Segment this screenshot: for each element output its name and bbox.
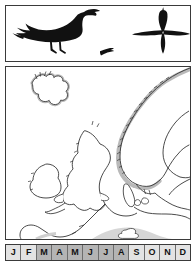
distribution-map: [5, 66, 191, 240]
map-range-shading-south: [36, 228, 172, 239]
flight-silhouette-panel: [129, 6, 191, 61]
month-cell-feb[interactable]: F: [21, 245, 36, 260]
month-cell-jun[interactable]: J: [83, 245, 98, 260]
month-cell-sep[interactable]: S: [129, 245, 144, 260]
month-cell-aug[interactable]: A: [114, 245, 129, 260]
silhouette-panel-row: [5, 5, 191, 62]
month-cell-nov[interactable]: N: [160, 245, 175, 260]
field-guide-page: J F M A M J J A S O N D: [0, 0, 196, 266]
month-cell-may[interactable]: M: [68, 245, 83, 260]
month-cell-mar[interactable]: M: [37, 245, 52, 260]
map-region-ireland: [28, 164, 61, 198]
month-cell-jul[interactable]: J: [99, 245, 114, 260]
month-cell-dec[interactable]: D: [176, 245, 190, 260]
map-region-baltic-coast: [134, 193, 190, 219]
map-svg: [6, 67, 190, 239]
perched-silhouette-panel: [6, 6, 128, 61]
month-cell-jan[interactable]: J: [6, 245, 21, 260]
flying-cormorant-icon: [129, 6, 191, 61]
monthly-occurrence-bar: J F M A M J J A S O N D: [5, 244, 191, 261]
map-region-iceland: [32, 71, 68, 105]
month-cell-oct[interactable]: O: [145, 245, 160, 260]
perched-cormorant-icon: [6, 6, 128, 61]
month-cell-apr[interactable]: A: [52, 245, 67, 260]
map-region-scandinavia: [117, 68, 190, 195]
